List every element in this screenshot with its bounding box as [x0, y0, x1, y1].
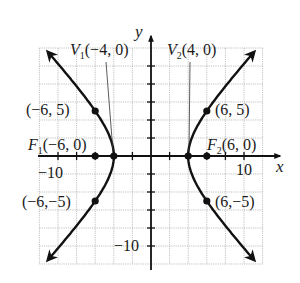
- f1-label: F1(−6, 0): [27, 136, 86, 156]
- point-marker: [203, 152, 210, 159]
- hyperbola-diagram: x y 10 −10 −10 V1(−4, 0) V2(4, 0) F1(−6,…: [0, 0, 300, 283]
- point-marker: [92, 107, 99, 114]
- v2-label: V2(4, 0): [167, 41, 216, 61]
- point-marker: [203, 107, 210, 114]
- diagram-canvas: x y 10 −10 −10 V1(−4, 0) V2(4, 0) F1(−6,…: [0, 0, 300, 283]
- v1-label-coords: (−4, 0): [85, 41, 129, 59]
- v2-label-coords: (4, 0): [182, 41, 217, 59]
- point-neg6-5-label: (−6, 5): [26, 101, 70, 119]
- x-tick-neg10-label: −10: [38, 164, 63, 181]
- x-tick-10-label: 10: [236, 161, 252, 178]
- point-marker: [110, 152, 117, 159]
- point-neg6-neg5-label: (−6,−5): [22, 193, 71, 211]
- f1-label-name: F: [27, 136, 38, 153]
- v2-leader-line: [189, 62, 190, 152]
- point-marker: [185, 152, 192, 159]
- f2-label: F2(6, 0): [206, 136, 256, 156]
- y-axis-label: y: [133, 22, 143, 41]
- v1-label: V1(−4, 0): [70, 41, 128, 61]
- f1-label-coords: (−6, 0): [43, 136, 87, 154]
- point-6-5-label: (6, 5): [215, 101, 250, 119]
- point-marker: [203, 197, 210, 204]
- f2-label-name: F: [206, 136, 217, 153]
- x-axis-label: x: [275, 157, 284, 176]
- point-marker: [92, 152, 99, 159]
- y-tick-neg10-label: −10: [114, 237, 139, 254]
- f2-label-coords: (6, 0): [222, 136, 257, 154]
- point-6-neg5-label: (6,−5): [215, 193, 255, 211]
- point-marker: [92, 197, 99, 204]
